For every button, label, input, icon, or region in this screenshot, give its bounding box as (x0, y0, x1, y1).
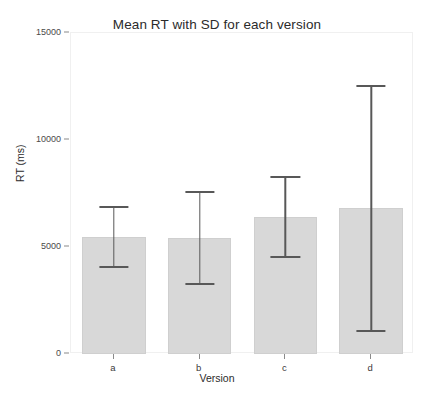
x-tick-mark (284, 354, 285, 359)
error-bar-line-c (285, 177, 286, 257)
error-bar-cap-upper-b (185, 191, 214, 193)
x-tick-mark (199, 354, 200, 359)
y-tick-mark (64, 32, 69, 33)
x-tick-label-b: b (196, 362, 201, 373)
error-bar-cap-lower-d (357, 330, 386, 332)
y-tick-label: 5000 (41, 241, 61, 251)
y-axis-label: RT (ms) (14, 164, 26, 182)
error-bar-line-a (113, 207, 114, 267)
chart-title: Mean RT with SD for each version (0, 17, 434, 32)
error-bar-line-d (370, 86, 371, 331)
x-tick-label-d: d (367, 362, 372, 373)
error-bar-cap-upper-d (357, 85, 386, 87)
x-tick-mark (370, 354, 371, 359)
error-bar-cap-lower-a (99, 266, 128, 268)
plot-panel (70, 32, 413, 353)
error-bar-cap-lower-c (271, 256, 300, 258)
y-tick-label: 0 (56, 348, 61, 358)
x-tick-label-c: c (282, 362, 287, 373)
error-bar-cap-upper-a (99, 206, 128, 208)
chart-figure: Mean RT with SD for each version RT (ms)… (0, 0, 434, 398)
x-tick-label-a: a (110, 362, 115, 373)
y-tick-mark (64, 139, 69, 140)
error-bar-cap-upper-c (271, 176, 300, 178)
error-bar-line-b (199, 192, 200, 284)
y-tick-label: 15000 (36, 27, 61, 37)
y-tick-mark (64, 353, 69, 354)
x-axis-label: Version (0, 372, 434, 384)
y-tick-mark (64, 246, 69, 247)
y-tick-label: 10000 (36, 134, 61, 144)
x-tick-mark (113, 354, 114, 359)
error-bar-cap-lower-b (185, 283, 214, 285)
